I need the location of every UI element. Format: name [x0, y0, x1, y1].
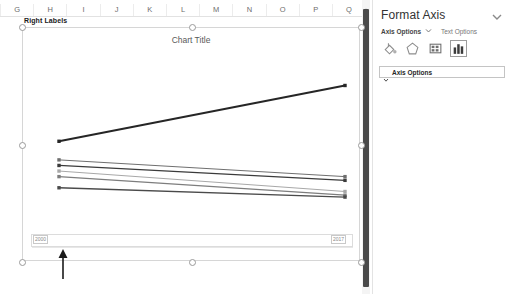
resize-handle-top-left[interactable] [19, 24, 26, 31]
pane-tab-row[interactable]: Axis Options Text Options [381, 27, 477, 35]
pane-title: Format Axis [381, 8, 445, 22]
chart-data-point[interactable] [343, 190, 346, 193]
tab-axis-options-label: Axis Options [381, 28, 421, 35]
resize-handle-top-middle[interactable] [189, 24, 196, 31]
chart-options-icon[interactable] [450, 40, 467, 57]
resize-handle-bottom-right[interactable] [358, 259, 365, 266]
resize-handle-bottom-middle[interactable] [189, 259, 196, 266]
column-header[interactable]: L [167, 4, 200, 16]
column-header-row: G H I J K L M N O P Q [0, 4, 366, 17]
resize-handle-middle-right[interactable] [358, 142, 365, 149]
size-properties-icon[interactable] [427, 40, 444, 57]
column-header[interactable]: G [0, 4, 34, 16]
chart-line-series[interactable] [59, 165, 345, 180]
chart-object[interactable]: Chart Title 2000 2017 [22, 27, 360, 261]
column-header[interactable]: J [101, 4, 134, 16]
chart-data-point[interactable] [343, 195, 346, 198]
chart-data-point[interactable] [57, 169, 60, 172]
chart-data-point[interactable] [343, 84, 346, 87]
section-header-label: Axis Options [392, 69, 432, 76]
format-axis-pane: Format Axis Axis Options Text Options [372, 0, 511, 294]
mouse-cursor-icon [58, 249, 68, 279]
scroll-up-arrow-icon[interactable] [363, 1, 369, 8]
tab-chevron-down-icon[interactable] [425, 27, 432, 34]
chart-data-point[interactable] [57, 140, 60, 143]
column-header[interactable]: P [300, 4, 333, 16]
spreadsheet-area[interactable]: G H I J K L M N O P Q Right Labels Chart… [0, 0, 372, 294]
column-header[interactable]: O [267, 4, 300, 16]
chart-data-point[interactable] [57, 158, 60, 161]
x-axis-label-end: 2017 [331, 235, 346, 244]
resize-handle-top-right[interactable] [358, 24, 365, 31]
excel-chart-format-axis-screen: G H I J K L M N O P Q Right Labels Chart… [0, 0, 511, 294]
chart-series-group [57, 84, 346, 199]
section-chevron-down-icon[interactable] [383, 69, 389, 75]
chart-data-point[interactable] [343, 175, 346, 178]
chart-line-series[interactable] [59, 85, 345, 141]
column-header[interactable]: M [200, 4, 233, 16]
column-header[interactable]: I [67, 4, 100, 16]
chart-data-point[interactable] [57, 186, 60, 189]
pane-icon-row[interactable] [381, 40, 467, 57]
axis-options-section-header[interactable]: Axis Options [379, 66, 505, 78]
resize-handle-bottom-left[interactable] [19, 259, 26, 266]
column-header[interactable]: H [34, 4, 67, 16]
tab-axis-options[interactable]: Axis Options [381, 27, 432, 35]
chart-svg [23, 28, 361, 262]
column-header[interactable]: N [233, 4, 266, 16]
chart-data-point[interactable] [343, 179, 346, 182]
x-axis-selection-box[interactable] [31, 234, 353, 247]
fill-line-icon[interactable] [381, 40, 398, 57]
chart-plot-area[interactable] [23, 28, 361, 262]
chart-data-point[interactable] [57, 175, 60, 178]
pane-close-chevron-down-icon[interactable] [491, 9, 503, 21]
effects-pentagon-icon[interactable] [404, 40, 421, 57]
tab-text-options[interactable]: Text Options [441, 28, 477, 35]
cell-text-right-labels[interactable]: Right Labels [24, 17, 67, 24]
column-header[interactable]: K [134, 4, 167, 16]
resize-handle-middle-left[interactable] [19, 142, 26, 149]
chart-data-point[interactable] [57, 164, 60, 167]
x-axis-label-start: 2000 [33, 235, 48, 244]
